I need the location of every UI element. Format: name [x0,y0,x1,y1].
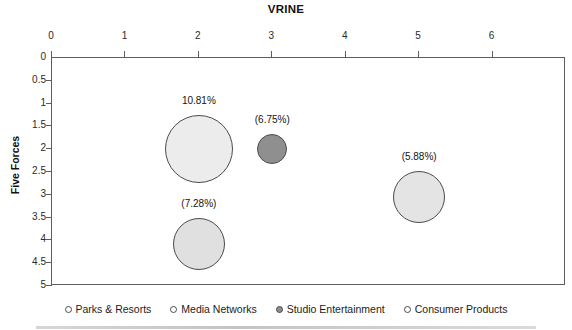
y-tick-label: 0 [12,51,46,62]
bubble-studio-entertainment[interactable] [257,134,287,164]
y-tick-label: 1 [12,97,46,108]
bubble-value-label: 10.81% [182,95,216,106]
legend-item-label: Media Networks [181,303,256,315]
legend-marker-icon [170,306,177,313]
bubble-chart: VRINE Five Forces 0123456 00.511.522.533… [0,0,572,330]
x-tick-label: 1 [109,30,139,41]
page-scan-edge [36,326,536,329]
y-tick-label: 3.5 [12,211,46,222]
bubble-consumer-products[interactable] [393,171,445,223]
legend-marker-icon [276,306,283,313]
x-tick-label: 0 [36,30,66,41]
legend-item-label: Studio Entertainment [287,303,385,315]
y-tick-label: 4.5 [12,256,46,267]
legend-item-parks-resorts[interactable]: Parks & Resorts [65,303,152,315]
y-tick-label: 1.5 [12,119,46,130]
chart-legend: Parks & ResortsMedia NetworksStudio Ente… [0,303,572,315]
y-tick-label: 0.5 [12,74,46,85]
y-tick-label: 3 [12,188,46,199]
x-tick-label: 6 [477,30,507,41]
plot-area: 10.81%(6.75%)(5.88%)(7.28%) [51,57,565,285]
legend-item-label: Consumer Products [415,303,508,315]
bubble-value-label: (5.88%) [402,151,437,162]
y-tick-label: 2 [12,142,46,153]
x-tick-label: 2 [183,30,213,41]
x-tick-label: 3 [256,30,286,41]
x-tick-label: 4 [330,30,360,41]
legend-item-consumer-products[interactable]: Consumer Products [404,303,508,315]
x-tick-label: 5 [403,30,433,41]
bubble-media-networks[interactable] [165,115,233,183]
bubble-value-label: (6.75%) [255,114,290,125]
legend-marker-icon [404,306,411,313]
chart-title: VRINE [0,3,572,15]
y-tick-label: 4 [12,233,46,244]
legend-item-studio-entertainment[interactable]: Studio Entertainment [276,303,385,315]
legend-item-label: Parks & Resorts [76,303,152,315]
bubble-value-label: (7.28%) [181,198,216,209]
y-tick-mark [46,285,52,286]
y-tick-label: 5 [12,279,46,290]
legend-marker-icon [65,306,72,313]
bubble-parks-resorts[interactable] [173,218,225,270]
legend-item-media-networks[interactable]: Media Networks [170,303,256,315]
y-tick-label: 2.5 [12,165,46,176]
